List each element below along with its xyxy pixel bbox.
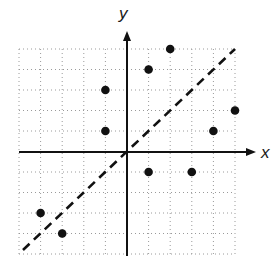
y-axis-label: y <box>118 4 129 23</box>
data-point <box>101 86 110 95</box>
data-point <box>209 127 218 136</box>
data-point <box>144 65 153 74</box>
data-point <box>144 168 153 177</box>
dashed-line-y-equals-x <box>23 49 235 250</box>
scatter-plot: x y <box>0 0 280 276</box>
data-point <box>188 168 197 177</box>
data-point <box>36 209 45 218</box>
y-axis-arrow-icon <box>123 31 131 41</box>
data-point <box>58 229 67 238</box>
x-axis-arrow-icon <box>246 148 256 156</box>
data-point <box>166 45 175 54</box>
data-point <box>231 106 240 115</box>
x-axis-label: x <box>260 143 270 162</box>
data-point <box>101 127 110 136</box>
